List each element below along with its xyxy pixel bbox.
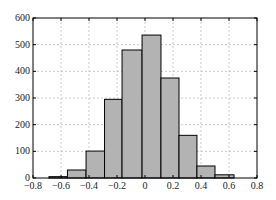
histogram-chart: −0.8−0.6−0.4−0.200.20.40.60.8 0100200300… — [0, 0, 276, 200]
histogram-bar — [197, 166, 215, 178]
y-tick-label: 400 — [15, 65, 30, 76]
histogram-bar — [67, 170, 86, 178]
x-tick-label: −0.2 — [108, 180, 126, 191]
y-tick-label: 500 — [15, 39, 30, 50]
x-tick-label: −0.6 — [52, 180, 70, 191]
x-tick-label: −0.4 — [80, 180, 98, 191]
histogram-bar — [105, 99, 123, 178]
x-tick-label: 0.6 — [223, 180, 236, 191]
x-tick-label: 0.4 — [195, 180, 208, 191]
y-tick-label: 0 — [25, 172, 30, 183]
histogram-bar — [142, 35, 161, 178]
y-tick-label: 300 — [15, 92, 30, 103]
x-axis-tick-labels: −0.8−0.6−0.4−0.200.20.40.60.8 — [24, 180, 263, 191]
y-tick-label: 200 — [15, 119, 30, 130]
histogram-bar — [161, 78, 179, 178]
histogram-bar — [179, 135, 197, 178]
x-tick-label: 0.8 — [251, 180, 264, 191]
y-axis-tick-labels: 0100200300400500600 — [15, 12, 30, 183]
x-tick-label: 0.2 — [167, 180, 180, 191]
y-tick-label: 600 — [15, 12, 30, 23]
histogram-bar — [122, 50, 142, 178]
y-tick-label: 100 — [15, 145, 30, 156]
x-tick-label: 0 — [143, 180, 148, 191]
histogram-bars — [49, 35, 234, 178]
histogram-bar — [86, 151, 104, 178]
